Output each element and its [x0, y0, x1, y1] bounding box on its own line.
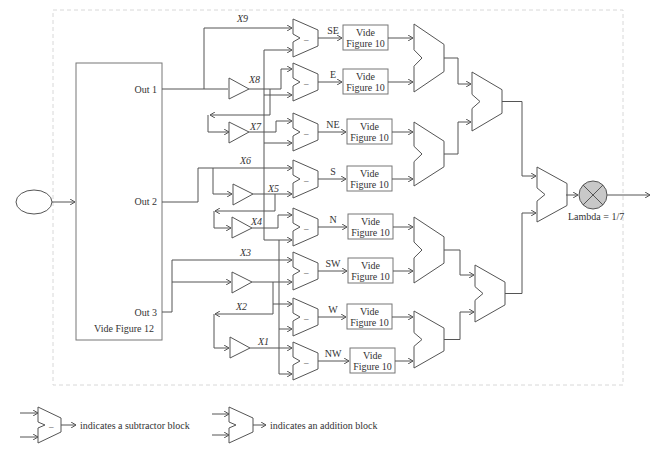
- subtractor-minus: –: [303, 128, 309, 138]
- subtractor-minus: –: [303, 175, 309, 185]
- vide-box-line1: Vide: [361, 216, 380, 227]
- subtractor-minus: –: [303, 34, 309, 44]
- out2-label: Out 2: [135, 196, 158, 207]
- legend-minus: –: [48, 421, 54, 431]
- adder-stage2-bottom: [475, 265, 505, 322]
- direction-label-sw: SW: [326, 258, 342, 269]
- x1-in-wire: [214, 314, 229, 348]
- vide-box-line2: Figure 10: [346, 38, 385, 49]
- gain-x7-triangle: [229, 122, 249, 143]
- vide-box-line2: Figure 10: [351, 227, 390, 238]
- direction-label-e: E: [330, 69, 336, 80]
- adder-w-nw: [414, 311, 444, 368]
- adder-n-sw: [414, 217, 444, 283]
- direction-label-s: S: [330, 166, 336, 177]
- subtractor-minus: –: [303, 267, 309, 277]
- system-diagram: Out 1 Out 2 Out 3 Vide Figure 12 X9 X8 X…: [0, 0, 662, 459]
- gain-label-x2: X2: [235, 301, 247, 312]
- x7-in-wire: [208, 115, 229, 132]
- vide-box-line2: Figure 10: [350, 317, 389, 328]
- gain-x4-triangle: [232, 217, 252, 238]
- gain-label-x9: X9: [236, 13, 248, 24]
- direction-label-w: W: [328, 304, 338, 315]
- gain-label-x3: X3: [239, 247, 251, 258]
- vide-box-line1: Vide: [360, 306, 379, 317]
- subtractor-minus: –: [303, 223, 309, 233]
- adder-final: [537, 167, 567, 222]
- vide-box-line2: Figure 10: [346, 82, 385, 93]
- gain-x8-triangle: [229, 78, 249, 99]
- x9-wire: [204, 28, 292, 89]
- vide-box-line1: Vide: [360, 121, 379, 132]
- x5-in-wire: [213, 168, 232, 194]
- backbone-1: [264, 50, 292, 143]
- gain-label-x4: X4: [250, 216, 262, 227]
- legend-adder-text: indicates an addition block: [270, 420, 377, 431]
- x4-in-wire: [214, 211, 231, 228]
- vide-box-line1: Vide: [356, 27, 375, 38]
- wire-a2-b1: [444, 122, 471, 154]
- vide-box-line2: Figure 10: [351, 271, 390, 282]
- subtractor-minus: –: [303, 357, 309, 367]
- legend-adder-icon: [229, 407, 253, 443]
- gain-x2-triangle: [232, 272, 252, 293]
- gain-x5-triangle: [233, 184, 253, 205]
- vide-box-line1: Vide: [363, 350, 382, 361]
- direction-label-nw: NW: [325, 348, 342, 359]
- vide-box-line2: Figure 10: [353, 361, 392, 372]
- direction-label-n: N: [329, 214, 336, 225]
- wire-b1-c1: [502, 102, 536, 177]
- gain-x1-triangle: [230, 337, 250, 358]
- vide-box-line1: Vide: [361, 260, 380, 271]
- gain-label-x8: X8: [248, 74, 260, 85]
- vide-box-line1: Vide: [356, 71, 375, 82]
- gain-label-x1: X1: [257, 336, 269, 347]
- legend-subtractor-text: indicates a subtractor block: [80, 420, 190, 431]
- adder-se-e: [414, 24, 444, 92]
- main-block-caption: Vide Figure 12: [94, 323, 154, 334]
- gain-label-x7: X7: [249, 121, 262, 132]
- wire-a1-b1: [444, 58, 471, 84]
- gain-label-x6: X6: [239, 155, 251, 166]
- input-source-ellipse: [16, 190, 52, 214]
- vide-box-line2: Figure 10: [350, 132, 389, 143]
- vide-box-line1: Vide: [360, 168, 379, 179]
- direction-label-ne: NE: [326, 119, 339, 130]
- wire-a3-b2: [444, 250, 474, 275]
- subtractor-minus: –: [303, 78, 309, 88]
- subtractor-minus: –: [303, 313, 309, 323]
- out1-label: Out 1: [135, 84, 158, 95]
- wire-a4-b2: [444, 312, 474, 340]
- gain-label-x5: X5: [267, 183, 279, 194]
- adder-stage2-top: [472, 72, 502, 131]
- out3-label: Out 3: [135, 307, 158, 318]
- vide-box-line2: Figure 10: [350, 179, 389, 190]
- adder-ne-s: [414, 122, 444, 186]
- wire-b2-c1: [505, 213, 536, 294]
- lambda-label: Lambda = 1/7: [568, 211, 624, 222]
- direction-label-se: SE: [327, 25, 339, 36]
